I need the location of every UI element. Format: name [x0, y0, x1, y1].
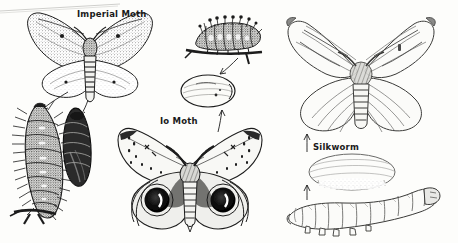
silkworm-cocoon: [309, 154, 395, 190]
io-moth-cocoon: [181, 75, 235, 107]
label-imperial-moth: Imperial Moth: [77, 9, 147, 19]
illustration-plate: Imperial Moth Io Moth Silkworm: [0, 0, 458, 243]
label-io-moth: Io Moth: [160, 116, 198, 126]
label-silkworm: Silkworm: [313, 142, 359, 152]
moth-plate-artwork: [0, 0, 458, 243]
